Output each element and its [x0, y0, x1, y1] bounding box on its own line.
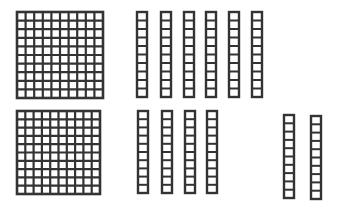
- ten-rod: [137, 12, 147, 97]
- ten-rod: [162, 111, 172, 193]
- diagram-svg: [0, 0, 345, 212]
- ten-rod: [184, 12, 194, 97]
- ten-rod: [138, 111, 148, 193]
- bottom-row: [17, 111, 321, 199]
- ten-rod: [206, 12, 216, 97]
- ten-rod: [229, 12, 239, 97]
- base-ten-blocks-diagram: [0, 0, 345, 212]
- ten-rod: [207, 111, 217, 193]
- ten-rod: [185, 111, 195, 193]
- top-row: [17, 12, 262, 98]
- ten-rod: [252, 12, 262, 97]
- hundred-flat: [17, 12, 103, 98]
- ten-rod: [161, 12, 171, 97]
- ten-rod: [311, 116, 321, 199]
- ten-rod: [284, 115, 294, 198]
- hundred-flat: [17, 111, 100, 194]
